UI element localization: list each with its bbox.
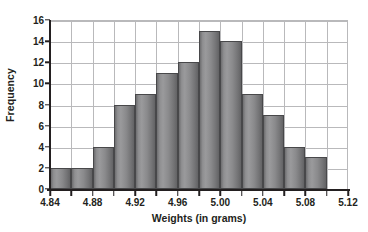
y-axis-tick-label: 10 <box>18 78 44 89</box>
x-axis-tick-mark <box>134 191 136 196</box>
y-axis-title: Frequency <box>0 0 20 190</box>
x-axis-tick-labels: 4.844.884.924.965.005.045.085.12 <box>50 197 348 211</box>
x-axis-tick-mark <box>347 191 349 196</box>
x-axis-tick-mark <box>198 191 200 196</box>
y-axis-tick-label: 8 <box>18 99 44 110</box>
x-axis-tick-marks <box>50 191 348 196</box>
bars-layer <box>50 21 347 189</box>
y-axis-tick-label: 2 <box>18 162 44 173</box>
x-axis-tick-mark <box>262 191 264 196</box>
x-axis-title: Weights (in grams) <box>50 212 348 224</box>
x-axis-tick-label: 5.04 <box>253 197 272 208</box>
x-axis-tick-mark <box>283 191 285 196</box>
x-axis-tick-mark <box>241 191 243 196</box>
histogram-bar <box>178 62 199 189</box>
y-axis-title-label: Frequency <box>4 68 16 122</box>
plot-area <box>50 20 348 189</box>
histogram-bar <box>135 94 156 189</box>
histogram-bar <box>220 41 241 189</box>
histogram-bar <box>284 147 305 189</box>
x-axis-tick-label: 5.08 <box>296 197 315 208</box>
x-axis-tick-label: 4.84 <box>40 197 59 208</box>
histogram-bar <box>156 73 177 189</box>
y-axis-tick-labels: 0246810121416 <box>18 20 44 189</box>
x-axis-tick-label: 4.96 <box>168 197 187 208</box>
x-axis-tick-mark <box>305 191 307 196</box>
x-axis-tick-label: 5.12 <box>338 197 357 208</box>
histogram-bar <box>305 157 326 189</box>
histogram-bar <box>93 147 114 189</box>
histogram-chart: Frequency 0246810121416 4.844.884.924.96… <box>0 0 368 232</box>
x-axis-tick-mark <box>92 191 94 196</box>
y-axis-tick-label: 4 <box>18 141 44 152</box>
x-axis-tick-mark <box>71 191 73 196</box>
y-axis-line <box>49 20 51 191</box>
x-axis-tick-label: 4.88 <box>83 197 102 208</box>
x-axis-tick-label: 5.00 <box>211 197 230 208</box>
y-axis-tick-label: 0 <box>18 184 44 195</box>
y-axis-tick-label: 14 <box>18 36 44 47</box>
histogram-bar <box>50 168 71 189</box>
y-axis-tick-label: 16 <box>18 15 44 26</box>
x-axis-tick-mark <box>220 191 222 196</box>
histogram-bar <box>263 115 284 189</box>
x-axis-tick-mark <box>113 191 115 196</box>
histogram-bar <box>242 94 263 189</box>
x-axis-tick-mark <box>177 191 179 196</box>
histogram-bar <box>71 168 92 189</box>
y-axis-tick-label: 12 <box>18 57 44 68</box>
x-axis-tick-mark <box>49 191 51 196</box>
histogram-bar <box>114 105 135 190</box>
histogram-bar <box>199 31 220 189</box>
x-axis-tick-mark <box>156 191 158 196</box>
y-axis-tick-label: 6 <box>18 120 44 131</box>
x-axis-tick-label: 4.92 <box>125 197 144 208</box>
x-axis-tick-mark <box>326 191 328 196</box>
